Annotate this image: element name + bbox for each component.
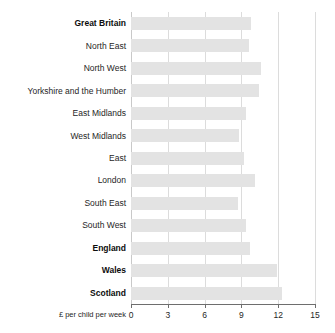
bar-row bbox=[131, 12, 315, 34]
bar bbox=[131, 197, 238, 210]
bar-row bbox=[131, 192, 315, 214]
bar-row bbox=[131, 169, 315, 191]
bar-chart: Great BritainNorth EastNorth WestYorkshi… bbox=[0, 0, 335, 333]
bar bbox=[131, 219, 246, 232]
bar-row bbox=[131, 214, 315, 236]
bar-row bbox=[131, 124, 315, 146]
bar bbox=[131, 174, 255, 187]
category-label: East Midlands bbox=[4, 108, 126, 118]
category-label: West Midlands bbox=[4, 131, 126, 141]
bar bbox=[131, 62, 261, 75]
x-tick-label: 9 bbox=[239, 310, 244, 320]
bar-row bbox=[131, 259, 315, 281]
x-axis-line bbox=[131, 304, 316, 305]
bar-row bbox=[131, 237, 315, 259]
category-label: Yorkshire and the Humber bbox=[4, 86, 126, 96]
x-tick-0 bbox=[131, 304, 132, 308]
category-label-column: Great BritainNorth EastNorth WestYorkshi… bbox=[0, 12, 126, 304]
bar-row bbox=[131, 147, 315, 169]
x-tick-3 bbox=[168, 304, 169, 308]
category-label: East bbox=[4, 153, 126, 163]
bar bbox=[131, 17, 251, 30]
bar-row bbox=[131, 282, 315, 304]
bar bbox=[131, 242, 250, 255]
bar bbox=[131, 152, 244, 165]
category-label: South West bbox=[4, 220, 126, 230]
x-tick-9 bbox=[241, 304, 242, 308]
x-tick-12 bbox=[278, 304, 279, 308]
bar-row bbox=[131, 79, 315, 101]
bar-row bbox=[131, 34, 315, 56]
category-label: Wales bbox=[4, 265, 126, 275]
bar bbox=[131, 39, 249, 52]
plot-area bbox=[131, 12, 315, 304]
x-tick-label: 6 bbox=[202, 310, 207, 320]
x-tick-label: 15 bbox=[310, 310, 319, 320]
category-label: South East bbox=[4, 198, 126, 208]
x-axis-title: £ per child per week bbox=[59, 310, 126, 320]
x-tick-label: 3 bbox=[165, 310, 170, 320]
category-label: North East bbox=[4, 41, 126, 51]
bar-row bbox=[131, 57, 315, 79]
category-label: Scotland bbox=[4, 288, 126, 298]
category-label: Great Britain bbox=[4, 18, 126, 28]
x-tick-6 bbox=[205, 304, 206, 308]
x-tick-label: 12 bbox=[273, 310, 282, 320]
category-label: North West bbox=[4, 63, 126, 73]
bar bbox=[131, 129, 239, 142]
bar bbox=[131, 107, 246, 120]
bar-row bbox=[131, 102, 315, 124]
bar bbox=[131, 287, 282, 300]
x-tick-15 bbox=[315, 304, 316, 308]
gridline-15 bbox=[315, 12, 316, 304]
bar bbox=[131, 84, 259, 97]
category-label: London bbox=[4, 175, 126, 185]
bar bbox=[131, 264, 277, 277]
x-tick-label: 0 bbox=[129, 310, 134, 320]
category-label: England bbox=[4, 243, 126, 253]
